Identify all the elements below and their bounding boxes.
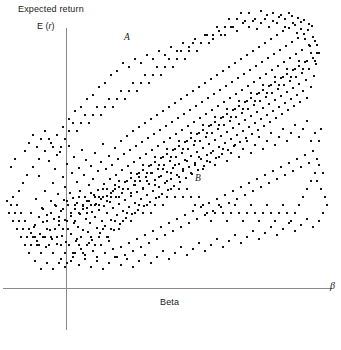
scatter-point (193, 144, 195, 146)
scatter-point (298, 204, 300, 206)
y-axis-symbol-prefix: E ( (37, 21, 49, 31)
scatter-point (221, 153, 223, 155)
scatter-point (132, 266, 134, 268)
scatter-point (80, 106, 82, 108)
scatter-point (34, 236, 36, 238)
scatter-point (155, 197, 157, 199)
scatter-point (26, 174, 28, 176)
scatter-point (104, 106, 106, 108)
scatter-point (172, 230, 174, 232)
scatter-point (192, 248, 194, 250)
scatter-point (68, 244, 70, 246)
scatter-point (67, 228, 69, 230)
scatter-point (282, 128, 284, 130)
scatter-point (100, 244, 102, 246)
scatter-point (90, 236, 92, 238)
scatter-point (160, 74, 162, 76)
scatter-point (295, 76, 297, 78)
scatter-point (214, 121, 216, 123)
scatter-point (272, 170, 274, 172)
scatter-point (194, 140, 196, 142)
scatter-point (169, 160, 171, 162)
scatter-point (218, 30, 220, 32)
scatter-point (86, 98, 88, 100)
scatter-point (238, 212, 240, 214)
scatter-point (210, 124, 212, 126)
scatter-point (297, 37, 299, 39)
scatter-point (302, 90, 304, 92)
scatter-point (178, 176, 180, 178)
scatter-point (240, 12, 242, 14)
scatter-point (78, 264, 80, 266)
scatter-point (141, 141, 143, 143)
scatter-point (14, 158, 16, 160)
scatter-point (208, 42, 210, 44)
scatter-point (268, 182, 270, 184)
scatter-point (177, 117, 179, 119)
scatter-point (244, 119, 246, 121)
scatter-point (180, 98, 182, 100)
scatter-point (157, 145, 159, 147)
y-axis-symbol: E (r) (37, 22, 55, 31)
scatter-point (96, 106, 98, 108)
scatter-point (234, 62, 236, 64)
scatter-point (247, 108, 249, 110)
scatter-point (134, 180, 136, 182)
scatter-point (162, 110, 164, 112)
scatter-point (274, 76, 276, 78)
scatter-point (292, 170, 294, 172)
scatter-point (251, 133, 253, 135)
scatter-point (60, 244, 62, 246)
scatter-point (129, 149, 131, 151)
scatter-point (101, 220, 103, 222)
scatter-point (162, 250, 164, 252)
scatter-point (271, 92, 273, 94)
scatter-point (38, 175, 40, 177)
scatter-point (190, 132, 192, 134)
scatter-point (96, 227, 98, 229)
scatter-point (131, 213, 133, 215)
scatter-point (109, 178, 111, 180)
scatter-point (121, 192, 123, 194)
scatter-point (320, 128, 322, 130)
scatter-point (290, 98, 292, 100)
scatter-point (96, 260, 98, 262)
scatter-point (28, 142, 30, 144)
scatter-point (86, 200, 88, 202)
scatter-point (159, 129, 161, 131)
scatter-point (132, 250, 134, 252)
scatter-point (262, 212, 264, 214)
scatter-point (270, 38, 272, 40)
scatter-point (104, 82, 106, 84)
scatter-point (94, 196, 96, 198)
scatter-point (65, 241, 67, 243)
scatter-point (200, 158, 202, 160)
scatter-point (211, 109, 213, 111)
scatter-point (322, 212, 324, 214)
scatter-point (264, 174, 266, 176)
scatter-point (164, 66, 166, 68)
scatter-point (152, 74, 154, 76)
scatter-point (314, 60, 316, 62)
scatter-point (228, 66, 230, 68)
scatter-point (36, 240, 38, 242)
scatter-point (170, 188, 172, 190)
scatter-point (222, 148, 224, 150)
scatter-point (303, 19, 305, 21)
scatter-point (158, 50, 160, 52)
scatter-point (218, 156, 220, 158)
scatter-point (154, 161, 156, 163)
scatter-point (54, 168, 56, 170)
y-axis-symbol-suffix: ) (52, 21, 55, 31)
scatter-point (163, 141, 165, 143)
scatter-point (16, 228, 18, 230)
scatter-point (198, 156, 200, 158)
scatter-point (46, 262, 48, 264)
scatter-point (188, 222, 190, 224)
scatter-point (50, 200, 52, 202)
scatter-point (223, 124, 225, 126)
scatter-point (164, 182, 166, 184)
scatter-point (110, 228, 112, 230)
scatter-point (154, 204, 156, 206)
scatter-point (244, 194, 246, 196)
